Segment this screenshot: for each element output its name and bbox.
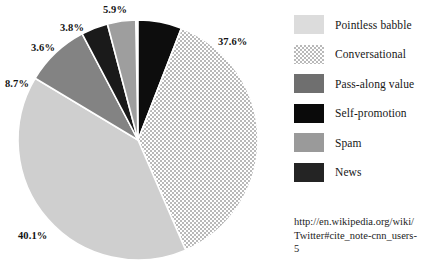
legend-swatch-conversational (294, 45, 324, 64)
legend-swatch-self-promotion (294, 104, 324, 123)
legend-swatch-news (294, 163, 324, 182)
legend-item-self-promotion: Self-promotion (294, 101, 423, 126)
legend-item-pointless-babble: Pointless babble (294, 12, 423, 37)
pie-chart-figure: 5.9% 37.6% 40.1% 8.7% 3.6% 3.8% Pointles… (0, 0, 423, 271)
slice-label-conversational: 37.6% (218, 36, 247, 47)
slice-label-pass-along-value: 8.7% (5, 78, 29, 89)
legend-label-self-promotion: Self-promotion (335, 107, 407, 119)
slice-label-pointless-babble: 40.1% (18, 230, 47, 241)
chart-legend: Pointless babble Conversational Pass-alo… (294, 12, 423, 189)
pie-chart-area: 5.9% 37.6% 40.1% 8.7% 3.6% 3.8% (0, 0, 285, 271)
legend-swatch-spam (294, 133, 324, 152)
slice-label-self-promotion: 3.6% (31, 42, 55, 53)
legend-item-news: News (294, 160, 423, 185)
legend-label-spam: Spam (335, 137, 362, 149)
legend-swatch-pass-along-value (294, 74, 324, 93)
slice-label-news: 5.9% (103, 4, 127, 15)
legend-label-pointless-babble: Pointless babble (335, 19, 412, 31)
legend-label-pass-along-value: Pass-along value (335, 78, 414, 90)
slice-label-spam: 3.8% (60, 22, 84, 33)
legend-item-spam: Spam (294, 130, 423, 155)
pie-slices (18, 20, 258, 260)
source-url-text: http://en.wikipedia.org/wiki/Twitter#cit… (294, 215, 420, 256)
legend-item-conversational: Conversational (294, 42, 423, 67)
legend-label-news: News (335, 166, 362, 178)
legend-item-pass-along-value: Pass-along value (294, 71, 423, 96)
legend-label-conversational: Conversational (335, 48, 406, 60)
legend-swatch-pointless-babble (294, 15, 324, 34)
